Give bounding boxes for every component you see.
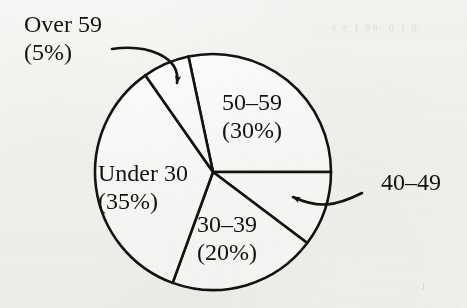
pie-chart-figure: 50–59(30%)40–4930–39(20%)Under 30(35%)Ov… xyxy=(0,0,467,308)
slice-label-name: Under 30 xyxy=(98,160,188,186)
slice-label-40-49: 40–49 xyxy=(381,169,441,195)
slice-label-percent: (5%) xyxy=(24,39,72,65)
slice-label-name: 50–59 xyxy=(222,89,282,115)
slice-label-name: Over 59 xyxy=(24,11,102,37)
slice-label-percent: (30%) xyxy=(222,117,282,143)
slice-label-name: 40–49 xyxy=(381,169,441,195)
pie-chart-svg: 50–59(30%)40–4930–39(20%)Under 30(35%)Ov… xyxy=(0,0,467,308)
slice-label-name: 30–39 xyxy=(197,211,257,237)
slice-label-percent: (20%) xyxy=(197,239,257,265)
slice-label-percent: (35%) xyxy=(98,188,158,214)
pie-slice-labels: 50–59(30%)40–4930–39(20%)Under 30(35%)Ov… xyxy=(24,11,441,265)
slice-label-over-59: Over 59(5%) xyxy=(24,11,102,65)
